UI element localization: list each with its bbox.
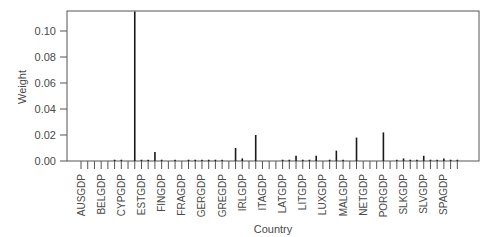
- x-tick-label: ESTGDP: [136, 174, 147, 215]
- x-tick-label: AUSGDP: [76, 174, 87, 217]
- x-tick-label: GERGDP: [196, 174, 207, 218]
- x-tick-label: FRAGDP: [176, 174, 187, 216]
- x-tick-label: SLVGDP: [418, 174, 429, 214]
- y-tick-label: 0.02: [35, 129, 56, 141]
- x-tick-label: GREGDP: [217, 174, 228, 218]
- y-tick-label: 0.00: [35, 155, 56, 167]
- x-tick-label: CYPGDP: [116, 174, 127, 217]
- x-tick-label: SPAGDP: [438, 174, 449, 215]
- y-tick-label: 0.04: [35, 103, 56, 115]
- x-tick-label: NETGDP: [358, 174, 369, 216]
- y-tick-label: 0.08: [35, 51, 56, 63]
- y-axis: 0.000.020.040.060.080.10: [35, 25, 67, 167]
- x-tick-label: IRLGDP: [237, 174, 248, 212]
- x-tick-label: SLKGDP: [398, 174, 409, 215]
- x-tick-label: LATGDP: [277, 174, 288, 214]
- x-tick-label: LUXGDP: [317, 174, 328, 215]
- y-axis-label: Weight: [16, 70, 28, 104]
- x-tick-label: FINGDP: [156, 174, 167, 212]
- y-tick-label: 0.06: [35, 77, 56, 89]
- weight-by-country-chart: 0.000.020.040.060.080.10 AUSGDPBELGDPCYP…: [0, 0, 497, 237]
- x-axis: AUSGDPBELGDPCYPGDPESTGDPFINGDPFRAGDPGERG…: [76, 161, 458, 217]
- y-tick-label: 0.10: [35, 25, 56, 37]
- x-tick-label: LITGDP: [297, 174, 308, 210]
- plot-area: [67, 11, 479, 161]
- bars: [115, 12, 458, 162]
- x-axis-label: Country: [254, 223, 293, 235]
- x-tick-label: BELGDP: [96, 174, 107, 215]
- x-tick-label: PORGDP: [378, 174, 389, 218]
- x-tick-label: ITAGDP: [257, 174, 268, 211]
- x-tick-label: MALGDP: [338, 174, 349, 217]
